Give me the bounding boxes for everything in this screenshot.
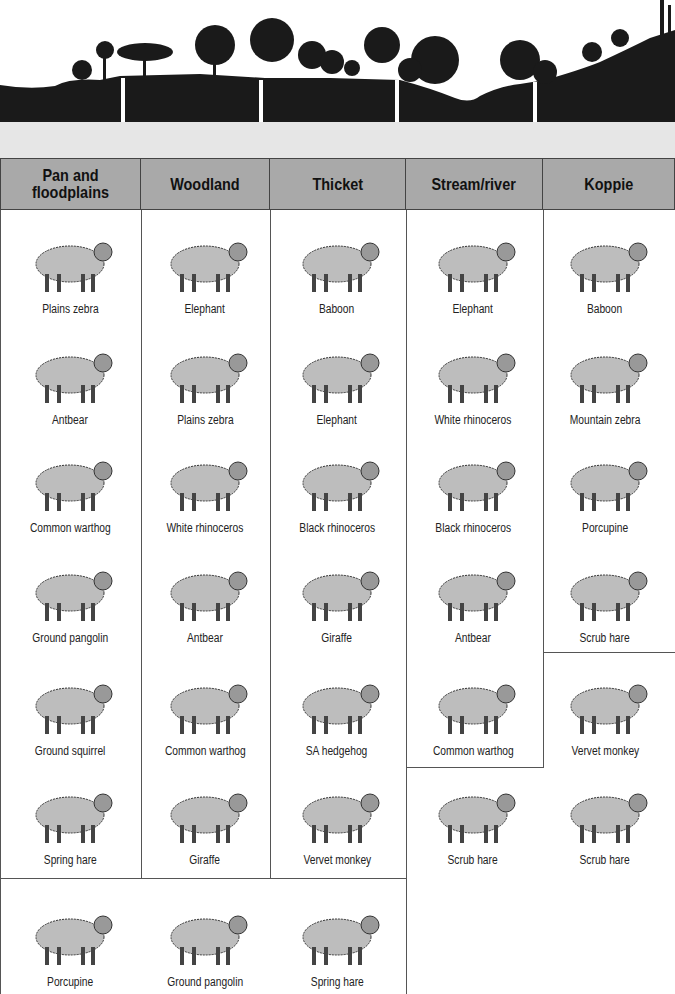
animal-label: Common warthog [433,744,514,758]
animal-label: White rhinoceros [435,413,512,427]
animal-illustration-icon [150,773,260,853]
animal-antbear: Antbear [408,539,538,649]
animal-illustration-icon [15,441,125,521]
animal-illustration-icon [550,333,660,413]
animal-plains-zebra: Plains zebra [140,321,270,431]
header-thicket: Thicket [270,158,406,210]
animal-giraffe: Giraffe [140,761,270,871]
animal-label: Baboon [319,302,354,316]
animal-mountain-zebra: Mountain zebra [540,321,670,431]
animal-black-rhinoceros: Black rhinoceros [408,429,538,539]
animal-illustration-icon [15,773,125,853]
animal-label: Scrub hare [580,631,630,645]
animal-illustration-icon [150,551,260,631]
animal-label: Antbear [187,631,223,645]
animal-label: Ground squirrel [35,744,106,758]
animal-illustration-icon [150,441,260,521]
header-woodland: Woodland [141,158,270,210]
animal-label: Elephant [317,413,357,427]
animal-sa-hedgehog: SA hedgehog [272,652,402,762]
animal-illustration-icon [418,773,528,853]
animal-label: Porcupine [582,521,628,535]
animal-illustration-icon [418,222,528,302]
animal-antbear: Antbear [140,539,270,649]
animal-illustration-icon [418,551,528,631]
animal-white-rhinoceros: White rhinoceros [408,321,538,431]
animal-label: Scrub hare [580,853,630,867]
animal-scrub-hare: Scrub hare [540,761,670,871]
animal-spring-hare: Spring hare [5,761,135,871]
animal-label: Baboon [587,302,622,316]
animal-elephant: Elephant [408,210,538,320]
animal-illustration-icon [282,222,392,302]
animal-ground-pangolin: Ground pangolin [5,539,135,649]
animal-label: Black rhinoceros [299,521,375,535]
animal-scrub-hare: Scrub hare [408,761,538,871]
animal-label: Vervet monkey [571,744,639,758]
animal-illustration-icon [282,551,392,631]
animal-illustration-icon [550,551,660,631]
animal-illustration-icon [15,551,125,631]
animal-illustration-icon [150,222,260,302]
animal-antbear: Antbear [5,321,135,431]
animal-label: Giraffe [322,631,353,645]
header-koppie: Koppie [543,158,675,210]
animal-label: Common warthog [30,521,111,535]
animal-baboon: Baboon [540,210,670,320]
animal-label: SA hedgehog [306,744,368,758]
animal-illustration-icon [550,664,660,744]
animal-label: Plains zebra [42,302,98,316]
animal-label: Spring hare [44,853,97,867]
animal-elephant: Elephant [272,321,402,431]
animal-label: Antbear [52,413,88,427]
animal-illustration-icon [15,333,125,413]
animal-label: Common warthog [165,744,246,758]
animal-illustration-icon [282,773,392,853]
animal-vervet-monkey: Vervet monkey [540,652,670,762]
animal-illustration-icon [418,664,528,744]
animal-illustration-icon [418,441,528,521]
animal-porcupine: Porcupine [5,878,135,993]
animal-label: Antbear [455,631,491,645]
animal-illustration-icon [550,222,660,302]
animal-illustration-icon [15,664,125,744]
animal-illustration-icon [282,895,392,975]
animal-label: Ground pangolin [32,631,108,645]
animal-illustration-icon [150,664,260,744]
animal-scrub-hare: Scrub hare [540,539,670,649]
animal-common-warthog: Common warthog [408,652,538,762]
animal-illustration-icon [15,222,125,302]
animal-label: Mountain zebra [570,413,641,427]
header-pan-and-floodplains: Pan and floodplains [0,158,141,210]
landscape-silhouette [0,0,675,122]
animal-label: Black rhinoceros [435,521,511,535]
animal-illustration-icon [150,333,260,413]
animal-label: Elephant [185,302,225,316]
animal-common-warthog: Common warthog [140,652,270,762]
animal-label: Elephant [453,302,493,316]
animal-illustration-icon [282,333,392,413]
animal-illustration-icon [282,441,392,521]
animal-illustration-icon [550,441,660,521]
animal-spring-hare: Spring hare [272,878,402,993]
animal-label: Scrub hare [448,853,498,867]
animal-illustration-icon [550,773,660,853]
animal-label: Plains zebra [177,413,233,427]
animal-illustration-icon [282,664,392,744]
header-stream-river: Stream/river [406,158,543,210]
animal-white-rhinoceros: White rhinoceros [140,429,270,539]
animal-illustration-icon [150,895,260,975]
animal-label: White rhinoceros [167,521,244,535]
animal-common-warthog: Common warthog [5,429,135,539]
animal-label: Giraffe [190,853,221,867]
animal-plains-zebra: Plains zebra [5,210,135,320]
animal-label: Vervet monkey [303,853,371,867]
animal-giraffe: Giraffe [272,539,402,649]
animal-vervet-monkey: Vervet monkey [272,761,402,871]
animal-label: Porcupine [47,975,93,989]
animal-ground-pangolin: Ground pangolin [140,878,270,993]
animal-porcupine: Porcupine [540,429,670,539]
animal-illustration-icon [418,333,528,413]
animal-baboon: Baboon [272,210,402,320]
gray-band [0,122,675,158]
